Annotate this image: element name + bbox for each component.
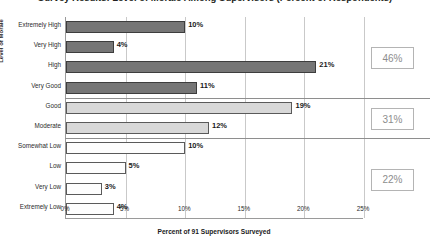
category-label: Low xyxy=(0,162,61,169)
category-label: Very Good xyxy=(0,82,61,89)
plot-area: 10%Extremely High4%Very High21%High11%Ve… xyxy=(65,17,363,219)
bar-value-label: 10% xyxy=(188,141,203,150)
group-separator xyxy=(65,98,430,99)
bar-value-label: 4% xyxy=(117,40,128,49)
category-label: Extremely Low xyxy=(0,203,61,210)
bar xyxy=(66,203,114,215)
group-total-box: 22% xyxy=(371,169,414,191)
bar xyxy=(66,21,185,33)
bar-row: 11%Very Good xyxy=(66,78,430,98)
x-axis-tick-label: 15% xyxy=(237,205,250,212)
x-axis-tick-label: 5% xyxy=(120,205,129,212)
bar-row: 10%Extremely High xyxy=(66,17,430,37)
category-label: Very Low xyxy=(0,183,61,190)
bar-chart: Survey Results: Level of Morale Among Su… xyxy=(0,0,430,251)
bar xyxy=(66,122,209,134)
group-separator xyxy=(65,138,430,139)
bar xyxy=(66,142,185,154)
bar xyxy=(66,41,114,53)
bar-row: 10%Somewhat Low xyxy=(66,138,430,158)
category-label: Moderate xyxy=(0,122,61,129)
bar xyxy=(66,183,102,195)
bar-value-label: 11% xyxy=(200,81,215,90)
category-label: Very High xyxy=(0,41,61,48)
x-axis-tick-label: 25% xyxy=(357,205,370,212)
category-label: High xyxy=(0,61,61,68)
x-axis-tick-label: 10% xyxy=(178,205,191,212)
bar-value-label: 10% xyxy=(188,20,203,29)
x-axis-tick-label: 20% xyxy=(297,205,310,212)
chart-title: Survey Results: Level of Morale Among Su… xyxy=(38,0,392,3)
bar xyxy=(66,61,316,73)
bar-value-label: 12% xyxy=(212,121,227,130)
bar xyxy=(66,102,292,114)
bar-value-label: 5% xyxy=(129,161,140,170)
x-axis-tick-label: 0% xyxy=(60,205,69,212)
bar xyxy=(66,82,197,94)
group-total-box: 31% xyxy=(371,108,414,130)
bar-value-label: 21% xyxy=(319,60,334,69)
x-axis-title: Percent of 91 Supervisors Surveyed xyxy=(65,228,363,235)
group-total-box: 46% xyxy=(371,47,414,69)
category-label: Extremely High xyxy=(0,21,61,28)
chart-title-cropped: Survey Results: Level of Morale Among Su… xyxy=(0,0,430,9)
category-label: Somewhat Low xyxy=(0,142,61,149)
category-label: Good xyxy=(0,102,61,109)
bar xyxy=(66,162,126,174)
bar-value-label: 3% xyxy=(105,182,116,191)
bar-value-label: 19% xyxy=(295,101,310,110)
